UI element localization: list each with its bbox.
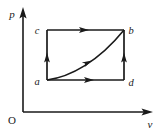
point-label-b: b <box>128 25 133 36</box>
pv-cycle-figure: a b c d p v O <box>0 0 167 134</box>
point-label-c: c <box>35 25 40 36</box>
v-axis-label: v <box>148 118 153 130</box>
origin-label: O <box>8 114 16 126</box>
axis-group <box>19 7 153 116</box>
cycle-path-group <box>44 27 127 83</box>
segment-a-to-b-curve <box>47 30 124 80</box>
pv-diagram-canvas: a b c d p v O <box>0 0 167 134</box>
point-label-a: a <box>34 76 39 87</box>
p-axis-label: p <box>8 8 15 20</box>
point-label-d: d <box>128 77 134 88</box>
